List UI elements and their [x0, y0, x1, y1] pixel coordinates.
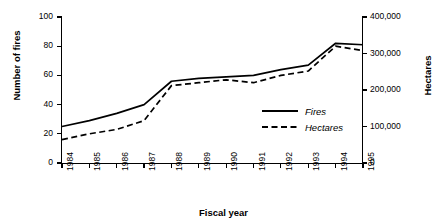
- x-axis-tick: [280, 164, 281, 168]
- y-axis-right-tick-label: 400,000: [370, 12, 401, 21]
- line-chart: 020406080100 0100,000200,000300,000400,0…: [0, 0, 447, 223]
- x-axis-tick: [335, 164, 336, 168]
- x-axis-tick: [171, 164, 172, 168]
- y-axis-right-tick: [363, 126, 367, 127]
- x-axis-tick: [362, 164, 363, 168]
- y-axis-left-tick: [57, 133, 61, 134]
- x-axis-tick: [308, 164, 309, 168]
- y-axis-left-tick-label: 100: [11, 12, 53, 21]
- y-axis-left-tick-label: 0: [11, 158, 53, 167]
- y-axis-left-tick: [57, 162, 61, 163]
- x-axis-tick: [61, 164, 62, 168]
- y-axis-right-tick: [363, 16, 367, 17]
- y-axis-left-tick-label: 20: [11, 129, 53, 138]
- legend-item-hectares: Hectares: [262, 119, 343, 135]
- x-axis-tick: [198, 164, 199, 168]
- legend-swatch-solid-icon: [262, 106, 298, 116]
- legend-swatch-dashed-icon: [262, 122, 298, 132]
- x-axis-tick: [226, 164, 227, 168]
- plot-area: [62, 17, 363, 163]
- legend-item-fires: Fires: [262, 103, 343, 119]
- y-axis-right-tick: [363, 53, 367, 54]
- y-axis-left-title: Number of fires: [11, 26, 22, 106]
- chart-legend: FiresHectares: [262, 103, 343, 135]
- legend-label: Fires: [305, 106, 326, 117]
- x-axis-tick: [116, 164, 117, 168]
- y-axis-left-tick: [57, 75, 61, 76]
- y-axis-right-tick-label: 100,000: [370, 122, 401, 131]
- y-axis-right-tick-label: 300,000: [370, 49, 401, 58]
- y-axis-right-title: Hectares: [422, 41, 433, 111]
- x-axis-tick: [89, 164, 90, 168]
- y-axis-left-tick: [57, 46, 61, 47]
- x-axis-tick: [143, 164, 144, 168]
- y-axis-right-tick: [363, 89, 367, 90]
- x-axis-title: Fiscal year: [0, 207, 447, 218]
- x-axis-tick-label: 1995: [367, 152, 376, 171]
- y-axis-left-tick: [57, 16, 61, 17]
- legend-label: Hectares: [305, 122, 343, 133]
- x-axis-tick: [253, 164, 254, 168]
- series-lines: [62, 17, 363, 163]
- y-axis-left-tick: [57, 104, 61, 105]
- y-axis-right-tick-label: 200,000: [370, 85, 401, 94]
